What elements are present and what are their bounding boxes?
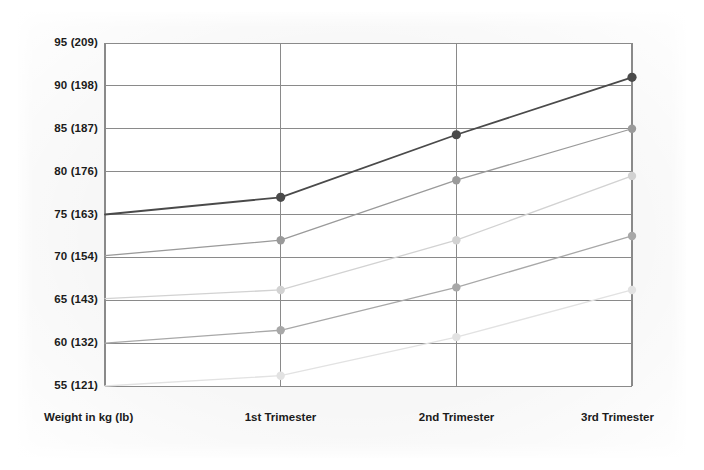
x-axis-title-label: Weight in kg (lb) bbox=[44, 412, 133, 424]
chart-page: 95 (209)90 (198)85 (187)80 (176)75 (163)… bbox=[0, 0, 704, 470]
x-axis-tick-label: 1st Trimester bbox=[245, 412, 317, 424]
x-axis-tick-label: 3rd Trimester bbox=[581, 412, 654, 424]
x-axis-tick-labels: Weight in kg (lb)1st Trimester2nd Trimes… bbox=[0, 0, 704, 470]
x-axis-tick-label: 2nd Trimester bbox=[419, 412, 494, 424]
